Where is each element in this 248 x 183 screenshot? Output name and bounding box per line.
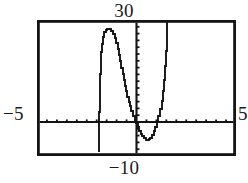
- y-max-label: 30: [0, 1, 248, 20]
- x-min-label: −5: [3, 104, 24, 123]
- y-min-label: −10: [0, 158, 248, 177]
- plot-frame: [37, 20, 236, 156]
- x-max-label: 5: [238, 104, 248, 123]
- plot-canvas: [37, 20, 236, 156]
- calculator-graph-screenshot: 30 −10 −5 5: [0, 0, 248, 183]
